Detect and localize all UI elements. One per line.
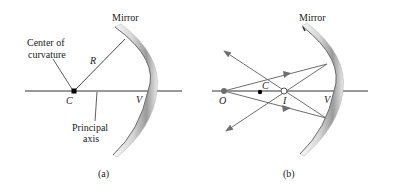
center-point <box>72 89 77 94</box>
caption-b: (b) <box>283 168 295 180</box>
incident-arrow-lower <box>282 105 291 112</box>
concave-mirror-b <box>300 23 344 156</box>
radius-label: R <box>89 55 96 66</box>
axis-label-line2: axis <box>83 133 99 144</box>
center-label-line1: Center of <box>27 37 65 48</box>
reflected-ray-upper <box>226 64 327 131</box>
incident-ray-lower <box>224 91 326 118</box>
mirror-label: Mirror <box>112 12 139 23</box>
center-point-label: C <box>66 95 73 106</box>
center-pointer-line <box>53 59 72 89</box>
panel-b: Mirror O C I V (b) <box>212 12 368 180</box>
incident-ray-upper <box>224 64 327 91</box>
axis-label-line1: Principal <box>72 122 108 133</box>
axis-pointer-line <box>95 92 97 121</box>
center-label-line2: curvature <box>28 49 66 60</box>
reflected-ray-lower <box>224 51 326 118</box>
concave-mirror-diagram: Mirror Center of curvature R C V Princip… <box>0 0 394 195</box>
image-point <box>281 88 287 94</box>
object-label: O <box>219 95 226 106</box>
caption-a: (a) <box>98 168 109 180</box>
image-label: I <box>282 95 287 106</box>
object-point <box>221 88 227 94</box>
incident-arrow-upper <box>283 71 291 78</box>
mirror-label-b: Mirror <box>299 12 326 23</box>
center-point-label-b: C <box>262 80 269 91</box>
panel-a: Mirror Center of curvature R C V Princip… <box>25 12 182 180</box>
vertex-label: V <box>136 94 144 105</box>
radius-line <box>74 39 125 91</box>
